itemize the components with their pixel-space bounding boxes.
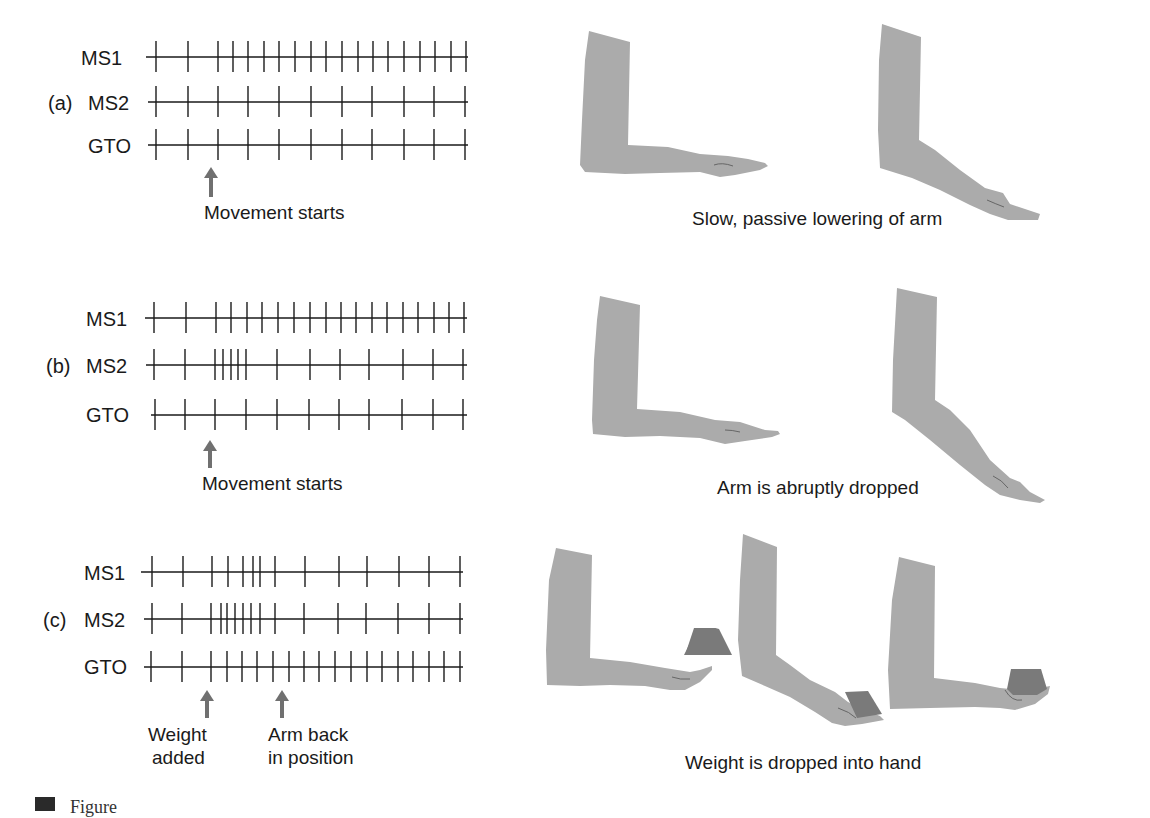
caption-slow-passive-lowering: Slow, passive lowering of arm [692,208,942,230]
arm-illustration-c-recovered [888,557,1050,710]
arm-illustration-a-lowered [878,24,1040,220]
figure-marker-square [35,797,55,811]
arm-illustration-b-dropped [892,288,1045,503]
arm-illustration-c-dropped [738,534,884,726]
figure-label: Figure [70,797,117,818]
arm-illustration-c-before [546,548,732,690]
arm-illustration-a-bent [580,31,768,177]
arm-illustration-b-bent [592,296,780,444]
caption-weight-dropped: Weight is dropped into hand [685,752,921,774]
caption-abruptly-dropped: Arm is abruptly dropped [717,477,919,499]
weight-icon [1007,669,1047,695]
